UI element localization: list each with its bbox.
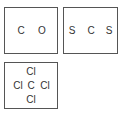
atom-o: O	[38, 26, 46, 36]
atom-cl-bottom: Cl	[26, 95, 35, 105]
atom-c: C	[17, 26, 24, 36]
atom-s-right: S	[106, 26, 113, 36]
atom-c-center: C	[27, 81, 34, 91]
box-ccl4: Cl Cl C Cl Cl	[4, 62, 58, 109]
atom-s-left: S	[69, 26, 76, 36]
atom-cl-right: Cl	[40, 81, 49, 91]
atom-cl-left: Cl	[13, 81, 22, 91]
atom-cl-top: Cl	[26, 67, 35, 77]
box-cs2: S C S	[63, 7, 118, 54]
box-co: C O	[4, 7, 58, 54]
atom-c: C	[87, 26, 94, 36]
